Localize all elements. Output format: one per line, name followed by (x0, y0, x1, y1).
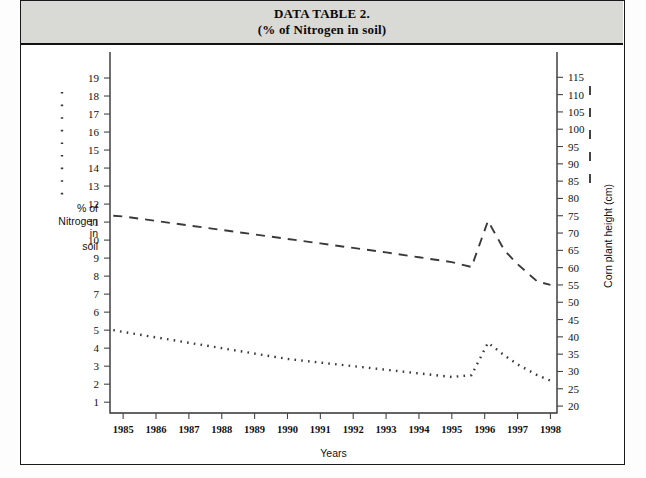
left-axis-label: 7 (94, 288, 100, 300)
series-line-1 (113, 216, 550, 285)
right-axis-label: 45 (568, 314, 580, 326)
x-axis-label: 1997 (507, 424, 528, 435)
x-axis-label: 1988 (211, 424, 232, 435)
right-axis-caption: Corn plant height (cm) (602, 184, 614, 288)
x-axis-label: 1996 (474, 424, 495, 435)
right-axis-label: 65 (568, 244, 580, 256)
x-axis-label: 1994 (408, 424, 430, 435)
right-axis-label: 75 (568, 210, 580, 222)
x-axis-label: 1995 (441, 424, 462, 435)
right-axis-label: 90 (568, 158, 580, 170)
left-axis-label: 18 (88, 90, 100, 102)
right-axis-label: 20 (568, 400, 580, 412)
right-axis-label: 115 (568, 71, 585, 83)
left-axis-caption-line: soil (82, 240, 98, 252)
left-axis-label: 13 (88, 180, 100, 192)
x-axis-label: 1992 (343, 424, 364, 435)
right-axis-label: 80 (568, 192, 580, 204)
left-axis-label: 1 (94, 396, 100, 408)
left-axis-label: 5 (94, 324, 100, 336)
left-axis-caption-line: % of (77, 202, 98, 214)
chart-area: 1234567891011121314151617181920253035404… (20, 46, 625, 464)
left-axis-label: 3 (94, 360, 100, 372)
left-axis-label: 14 (88, 162, 100, 174)
right-axis-label: 105 (568, 106, 585, 118)
title-line-2: (% of Nitrogen in soil) (258, 22, 387, 38)
x-axis-label: 1990 (277, 424, 298, 435)
x-axis-label: 1993 (376, 424, 397, 435)
x-axis-label: 1991 (310, 424, 331, 435)
left-axis-caption-line: in (90, 227, 98, 239)
left-axis-label: 15 (88, 144, 100, 156)
left-axis-label: 4 (94, 342, 100, 354)
title-line-1: DATA TABLE 2. (274, 6, 370, 22)
right-axis-label: 85 (568, 175, 580, 187)
series-line-2 (113, 330, 550, 380)
right-axis-label: 110 (568, 89, 585, 101)
right-axis-label: 40 (568, 331, 580, 343)
right-axis-label: 100 (568, 123, 585, 135)
right-axis-label: 95 (568, 141, 580, 153)
left-axis-label: 16 (88, 126, 100, 138)
right-axis-label: 25 (568, 383, 580, 395)
x-axis-label: 1987 (178, 424, 199, 435)
left-axis-label: 9 (94, 252, 100, 264)
right-axis-label: 30 (568, 365, 580, 377)
axis-spines (110, 52, 557, 413)
right-axis-label: 50 (568, 296, 580, 308)
right-axis-label: 60 (568, 262, 580, 274)
line-chart: 1234567891011121314151617181920253035404… (20, 46, 625, 464)
left-axis-label: 17 (88, 108, 100, 120)
left-axis-caption-line: Nitrogen (58, 215, 98, 227)
x-axis-label: 1998 (540, 424, 561, 435)
left-axis-label: 19 (88, 72, 100, 84)
x-axis-label: 1989 (244, 424, 265, 435)
right-axis-label: 70 (568, 227, 580, 239)
page-root: DATA TABLE 2. (% of Nitrogen in soil) 12… (0, 0, 646, 478)
left-axis-label: 8 (94, 270, 100, 282)
right-axis-label: 35 (568, 348, 580, 360)
x-axis-caption: Years (320, 447, 346, 459)
right-axis-label: 55 (568, 279, 580, 291)
left-axis-label: 6 (94, 306, 100, 318)
x-axis-label: 1986 (146, 424, 167, 435)
left-axis-label: 2 (94, 378, 100, 390)
title-band: DATA TABLE 2. (% of Nitrogen in soil) (21, 1, 623, 45)
x-axis-label: 1985 (113, 424, 134, 435)
